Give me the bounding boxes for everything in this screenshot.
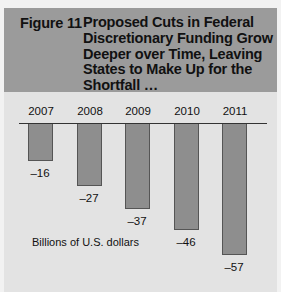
figure-label: Figure 11 — [20, 15, 82, 31]
value-label: –57 — [214, 261, 254, 273]
year-label: 2010 — [167, 105, 207, 117]
year-label: 2007 — [21, 105, 61, 117]
figure-title: Proposed Cuts in Federal Discretionary F… — [83, 15, 273, 94]
bar-2007 — [28, 124, 53, 161]
value-label: –46 — [166, 236, 206, 248]
value-label: –37 — [117, 215, 157, 227]
bar-2009 — [125, 124, 150, 209]
bar-2008 — [77, 124, 102, 186]
bar-2011 — [222, 124, 247, 255]
bar-2010 — [174, 124, 199, 230]
value-label: –16 — [20, 167, 60, 179]
year-label: 2011 — [215, 105, 255, 117]
source-note-cropped — [12, 286, 192, 292]
unit-label: Billions of U.S. dollars — [32, 236, 139, 248]
value-label: –27 — [69, 192, 109, 204]
year-label: 2008 — [70, 105, 110, 117]
year-label: 2009 — [118, 105, 158, 117]
